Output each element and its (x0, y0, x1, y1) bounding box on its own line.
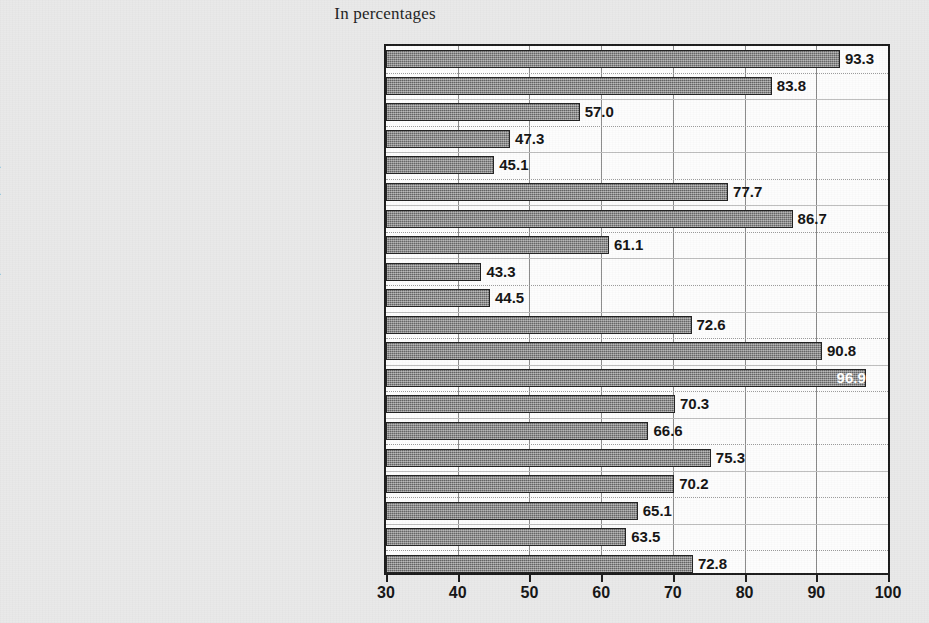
bar[interactable] (386, 77, 772, 95)
bar[interactable] (386, 316, 692, 334)
bar[interactable] (386, 50, 840, 68)
x-tick-label: 100 (875, 584, 902, 602)
bar-value-label: 45.1 (494, 156, 528, 174)
bar-value-label: 70.2 (674, 475, 708, 493)
x-tick (386, 575, 388, 582)
bar[interactable] (386, 183, 728, 201)
x-tick-label: 40 (449, 584, 467, 602)
bar[interactable] (386, 289, 490, 307)
x-tick (816, 575, 818, 582)
row-separator (386, 73, 888, 74)
row-separator (386, 232, 888, 233)
x-tick-label: 60 (592, 584, 610, 602)
bar[interactable] (386, 263, 481, 281)
row-separator (386, 312, 888, 313)
bar[interactable] (386, 130, 510, 148)
row-separator (386, 338, 888, 339)
x-tick-label: 50 (521, 584, 539, 602)
bar[interactable] (386, 502, 638, 520)
bar-value-label: 66.6 (648, 422, 682, 440)
x-tick-label: 90 (807, 584, 825, 602)
x-tick-label: 70 (664, 584, 682, 602)
bar-value-label: 77.7 (728, 183, 762, 201)
bar-value-label: 96.9 (386, 369, 871, 387)
x-tick (888, 575, 890, 582)
bar-value-label: 93.3 (840, 50, 874, 68)
bar[interactable] (386, 449, 711, 467)
bar-value-label: 44.5 (490, 289, 524, 307)
bar[interactable] (386, 555, 693, 573)
bar-value-label: 65.1 (638, 502, 672, 520)
chart-title: In percentages (0, 4, 770, 24)
row-separator (386, 258, 888, 259)
bar-value-label: 75.3 (711, 449, 745, 467)
plot-area: 93.383.857.047.345.177.786.761.143.344.5… (384, 44, 890, 575)
x-tick (601, 575, 603, 582)
row-separator (386, 365, 888, 366)
bar[interactable] (386, 103, 580, 121)
bar-value-label: 63.5 (626, 528, 660, 546)
bar-value-label: 57.0 (580, 103, 614, 121)
bar-value-label: 47.3 (510, 130, 544, 148)
row-separator (386, 524, 888, 525)
bar[interactable] (386, 395, 675, 413)
x-tick (745, 575, 747, 582)
bar-value-label: 70.3 (675, 395, 709, 413)
row-separator (386, 471, 888, 472)
row-separator (386, 126, 888, 127)
bar[interactable] (386, 156, 494, 174)
row-separator (386, 205, 888, 206)
x-axis-ticks (384, 575, 890, 582)
bar[interactable] (386, 422, 648, 440)
bar[interactable] (386, 210, 793, 228)
x-axis-tick-labels: 30405060708090100 (384, 584, 890, 610)
row-separator (386, 99, 888, 100)
x-tick-label: 80 (736, 584, 754, 602)
x-tick (529, 575, 531, 582)
bar-value-label: 72.8 (693, 555, 727, 573)
x-tick (673, 575, 675, 582)
bar-value-label: 72.6 (692, 316, 726, 334)
bar-value-label: 43.3 (481, 263, 515, 281)
bar[interactable] (386, 236, 609, 254)
x-tick-label: 30 (377, 584, 395, 602)
bar-value-label: 86.7 (793, 210, 827, 228)
row-separator (386, 179, 888, 180)
row-separator (386, 418, 888, 419)
bar-value-label: 83.8 (772, 77, 806, 95)
row-separator (386, 550, 888, 551)
x-tick (458, 575, 460, 582)
row-separator (386, 152, 888, 153)
bar[interactable] (386, 475, 674, 493)
bar[interactable] (386, 342, 822, 360)
bar[interactable] (386, 528, 626, 546)
row-separator (386, 391, 888, 392)
bar-value-label: 90.8 (822, 342, 856, 360)
row-separator (386, 497, 888, 498)
bar-value-label: 61.1 (609, 236, 643, 254)
row-separator (386, 285, 888, 286)
row-separator (386, 444, 888, 445)
